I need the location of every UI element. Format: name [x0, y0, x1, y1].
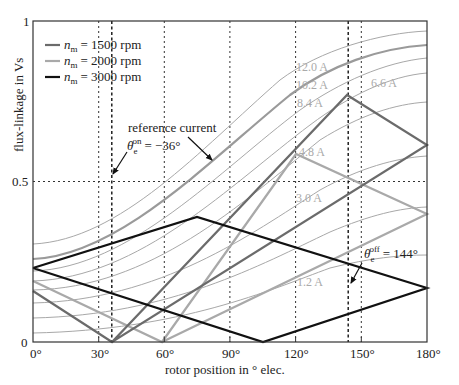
y-tick-1: 1 — [23, 14, 30, 29]
legend: nm= 1500 rpm nm= 2000 rpm nm= 3000 rpm — [45, 37, 141, 86]
svg-text:reference current: reference current — [128, 120, 217, 135]
label-8.4A: 8.4 A — [297, 96, 323, 110]
tick-marks — [99, 337, 362, 342]
label-4.8A: 4.8 A — [299, 145, 325, 159]
svg-text:nm= 2000 rpm: nm= 2000 rpm — [64, 53, 141, 70]
svg-text:θeoff= 144°: θeoff= 144° — [364, 244, 418, 264]
curve-3.0A — [33, 156, 427, 303]
trajectory-3000rpm — [33, 217, 427, 342]
svg-text:θeon= −36°: θeon= −36° — [127, 136, 181, 156]
x-tick-30: 30° — [91, 346, 109, 361]
x-tick-120: 120° — [284, 346, 309, 361]
x-tick-60: 60° — [156, 346, 174, 361]
label-10.2A: 10.2 A — [296, 78, 328, 92]
flux-linkage-chart: 0 0.5 1 0° 30° 60° 90° 120° 150° 180° ro… — [0, 0, 459, 385]
x-axis-label: rotor position in ° elec. — [165, 362, 285, 377]
svg-text:nm= 3000 rpm: nm= 3000 rpm — [64, 69, 141, 86]
x-tick-0: 0° — [30, 346, 42, 361]
x-tick-90: 90° — [222, 346, 240, 361]
y-tick-0: 0 — [21, 335, 28, 350]
label-12.0A: 12.0 A — [296, 60, 328, 74]
label-3.0A: 3.0 A — [296, 191, 322, 205]
y-tick-0.5: 0.5 — [12, 174, 28, 189]
annotation-theta-on: θeon= −36° — [113, 136, 181, 174]
label-6.6A: 6.6 A — [371, 76, 397, 90]
y-axis-label: flux-linkage in Vs — [11, 58, 26, 152]
label-1.2A: 1.2 A — [297, 275, 323, 289]
x-tick-180: 180° — [416, 346, 441, 361]
svg-text:nm= 1500 rpm: nm= 1500 rpm — [64, 37, 141, 54]
x-tick-150: 150° — [350, 346, 375, 361]
